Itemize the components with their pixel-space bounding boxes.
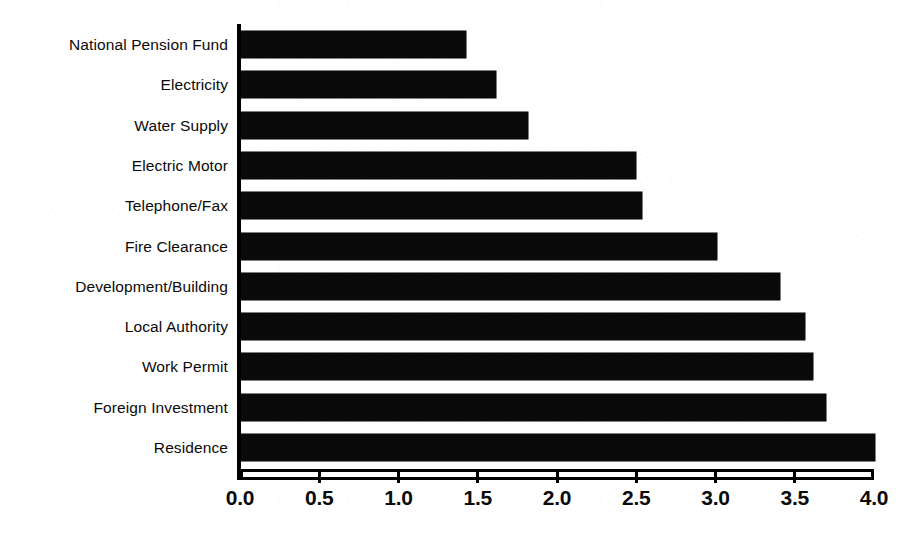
bar-chart-figure: National Pension FundElectricityWater Su… (0, 0, 922, 541)
value-axis-tick-label: 2.5 (622, 486, 650, 510)
value-axis-tick-label: 4.0 (860, 486, 888, 510)
bar-fill (241, 353, 813, 380)
bar-category-label: Electric Motor (132, 157, 228, 175)
value-axis-tick (556, 472, 559, 483)
bar-fill (241, 434, 875, 461)
bar-track (241, 313, 805, 340)
value-axis-tick (793, 472, 796, 483)
bar-track (241, 233, 717, 260)
bar-category-label: Foreign Investment (94, 399, 228, 417)
bar-track (241, 112, 528, 139)
bar-row: Electricity (0, 65, 922, 105)
bar-category-label: Work Permit (142, 358, 228, 376)
value-axis-tick (714, 472, 717, 483)
value-axis-tick-label: 0.5 (305, 486, 333, 510)
bar-fill (241, 112, 528, 139)
bar-row: Local Authority (0, 307, 922, 347)
value-axis-tick-label: 1.5 (464, 486, 492, 510)
value-axis-tick (635, 472, 638, 483)
bar-row: Fire Clearance (0, 227, 922, 267)
bar-track (241, 434, 875, 461)
bar-row: Work Permit (0, 347, 922, 387)
bar-fill (241, 31, 466, 58)
value-axis-tick (476, 472, 479, 483)
bar-track (241, 394, 826, 421)
bar-category-label: Local Authority (125, 318, 228, 336)
bar-track (241, 353, 813, 380)
value-axis-tick (318, 472, 321, 483)
bar-category-label: Development/Building (75, 278, 228, 296)
bar-fill (241, 152, 636, 179)
value-axis-tick-label: 2.0 (543, 486, 571, 510)
bar-category-label: Electricity (161, 76, 228, 94)
bar-row: Electric Motor (0, 146, 922, 186)
bar-track (241, 71, 496, 98)
bar-category-label: Residence (154, 439, 228, 457)
bar-track (241, 152, 636, 179)
bar-track (241, 192, 642, 219)
value-axis-tick-label: 0.0 (226, 486, 254, 510)
bar-row: Foreign Investment (0, 388, 922, 428)
bar-category-label: National Pension Fund (69, 36, 228, 54)
bar-fill (241, 394, 826, 421)
bar-fill (241, 192, 642, 219)
bar-fill (241, 313, 805, 340)
bar-track (241, 273, 780, 300)
bar-fill (241, 273, 780, 300)
value-axis (240, 469, 874, 480)
bar-track (241, 31, 466, 58)
value-axis-tick (397, 472, 400, 483)
bar-row: National Pension Fund (0, 25, 922, 65)
bar-row: Development/Building (0, 267, 922, 307)
value-axis-tick-label: 1.0 (384, 486, 412, 510)
bar-category-label: Telephone/Fax (125, 197, 228, 215)
bar-fill (241, 233, 717, 260)
bar-row: Residence (0, 428, 922, 468)
value-axis-tick-label: 3.5 (781, 486, 809, 510)
bar-category-label: Fire Clearance (125, 238, 228, 256)
bar-fill (241, 71, 496, 98)
bar-row: Telephone/Fax (0, 186, 922, 226)
value-axis-tick-label: 3.0 (701, 486, 729, 510)
plot-area: National Pension FundElectricityWater Su… (0, 0, 922, 541)
bar-row: Water Supply (0, 106, 922, 146)
bar-category-label: Water Supply (134, 117, 228, 135)
